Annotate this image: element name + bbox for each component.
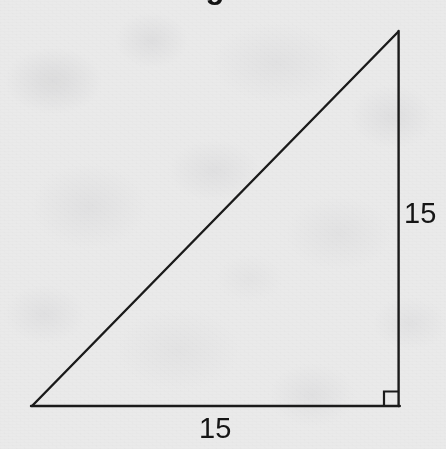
dimension-label-vertical-leg: 15 [404, 199, 437, 228]
dimension-label-horizontal-leg: 15 [199, 414, 232, 443]
triangle-drawing [0, 0, 446, 449]
right-angle-marker-icon [384, 392, 399, 407]
hypotenuse-line [32, 32, 398, 406]
right-triangle-figure: g 15 15 [0, 0, 446, 449]
